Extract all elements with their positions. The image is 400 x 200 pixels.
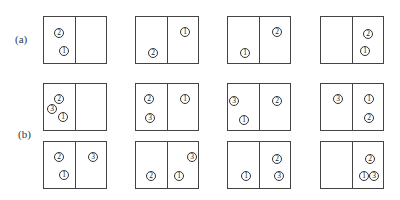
panel-box-b2-1: 213: [43, 141, 107, 189]
panel-box-b2-4: 213: [320, 141, 384, 189]
circled-number-3-marker: 3: [229, 96, 239, 106]
panel-divider: [75, 17, 76, 63]
circled-number-1-marker: 1: [241, 171, 251, 181]
circled-number-1-marker: 1: [180, 94, 190, 104]
circled-number-3-marker: 3: [274, 171, 284, 181]
panel-divider: [75, 84, 76, 130]
panel-box-b2-2: 213: [135, 141, 199, 189]
panel-divider: [352, 84, 353, 130]
circled-number-2-marker: 2: [272, 154, 282, 164]
circled-number-2-marker: 2: [144, 94, 154, 104]
circled-number-3-marker: 3: [145, 113, 155, 123]
circled-number-2-marker: 2: [364, 113, 374, 123]
circled-number-2-marker: 2: [272, 96, 282, 106]
panel-divider: [259, 17, 260, 63]
panel-box-b2-3: 123: [227, 141, 291, 189]
panel-box-a-2: 21: [135, 16, 199, 64]
panel-divider: [167, 17, 168, 63]
panel-divider: [167, 142, 168, 188]
label-b: (b): [18, 128, 31, 140]
panel-box-b1-4: 312: [320, 83, 384, 131]
circled-number-2-marker: 2: [54, 28, 64, 38]
panel-divider: [167, 84, 168, 130]
circled-number-2-marker: 2: [363, 29, 373, 39]
circled-number-1-marker: 1: [239, 115, 249, 125]
circled-number-1-marker: 1: [364, 94, 374, 104]
label-a: (a): [15, 33, 27, 45]
panel-divider: [352, 142, 353, 188]
circled-number-3-marker: 3: [47, 104, 57, 114]
circled-number-1-marker: 1: [59, 170, 69, 180]
panel-box-a-4: 21: [320, 16, 384, 64]
panel-box-a-1: 21: [43, 16, 107, 64]
circled-number-2-marker: 2: [272, 27, 282, 37]
circled-number-3-marker: 3: [88, 152, 98, 162]
circled-number-3-marker: 3: [187, 152, 197, 162]
circled-number-1-marker: 1: [359, 171, 369, 181]
circled-number-1-marker: 1: [360, 46, 370, 56]
circled-number-2-marker: 2: [365, 154, 375, 164]
circled-number-1-marker: 1: [174, 171, 184, 181]
circled-number-1-marker: 1: [240, 48, 250, 58]
panel-divider: [75, 142, 76, 188]
panel-box-b1-3: 312: [227, 83, 291, 131]
circled-number-2-marker: 2: [146, 171, 156, 181]
panel-divider: [259, 142, 260, 188]
circled-number-3-marker: 3: [369, 171, 379, 181]
circled-number-1-marker: 1: [180, 27, 190, 37]
circled-number-2-marker: 2: [148, 48, 158, 58]
panel-divider: [352, 17, 353, 63]
panel-divider: [259, 84, 260, 130]
circled-number-3-marker: 3: [333, 94, 343, 104]
panel-box-b1-2: 231: [135, 83, 199, 131]
circled-number-2-marker: 2: [54, 152, 64, 162]
panel-box-a-3: 12: [227, 16, 291, 64]
panel-box-b1-1: 231: [43, 83, 107, 131]
circled-number-1-marker: 1: [58, 112, 68, 122]
circled-number-1-marker: 1: [59, 46, 69, 56]
circled-number-2-marker: 2: [54, 94, 64, 104]
